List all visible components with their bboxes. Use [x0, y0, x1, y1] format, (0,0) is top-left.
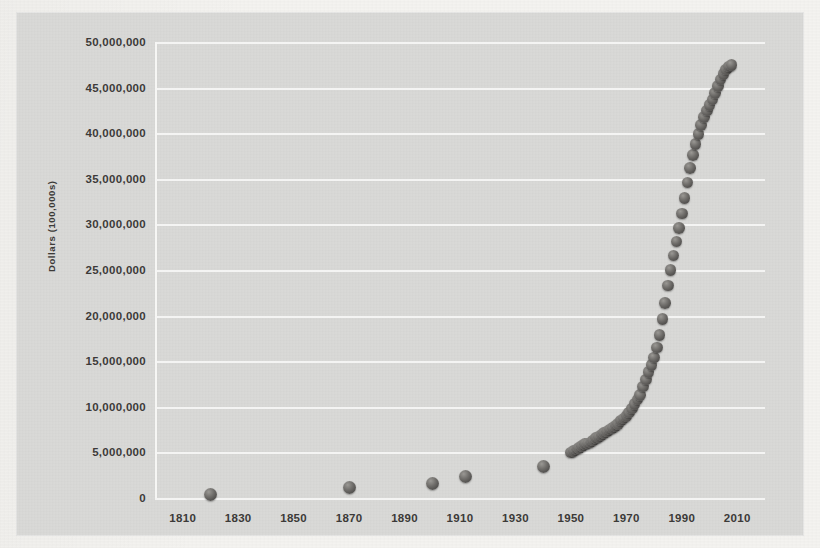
y-tick-label: 30,000,000: [85, 218, 146, 230]
data-point: [726, 59, 738, 71]
data-point: [459, 470, 472, 483]
y-tick-label: 15,000,000: [85, 355, 146, 367]
x-tick-label: 1850: [280, 512, 307, 524]
data-point: [665, 264, 677, 276]
data-point: [343, 481, 356, 494]
data-point: [537, 460, 550, 473]
data-point: [657, 313, 669, 325]
y-axis-title: Dollars (100,000s): [46, 180, 57, 272]
scanned-page: Nearly the U.S. economy into a recession…: [0, 0, 820, 548]
x-tick-label: 1910: [447, 512, 474, 524]
x-tick-label: 1990: [668, 512, 695, 524]
data-point: [682, 177, 694, 189]
gridline: [155, 42, 765, 44]
x-tick-label: 1830: [225, 512, 252, 524]
chart-figure: Dollars (100,000s) 05,000,00010,000,0001…: [16, 12, 804, 536]
y-tick-label: 35,000,000: [85, 173, 146, 185]
gridline: [155, 88, 765, 90]
gridline: [155, 498, 765, 500]
y-tick-label: 45,000,000: [85, 82, 146, 94]
data-point: [687, 149, 699, 161]
data-point: [671, 236, 683, 248]
data-point: [673, 222, 685, 234]
data-point: [659, 297, 671, 309]
data-point: [684, 162, 696, 174]
y-tick-label: 40,000,000: [85, 127, 146, 139]
gridline: [155, 407, 765, 409]
data-point: [690, 138, 702, 150]
gridline: [155, 179, 765, 181]
y-tick-label: 25,000,000: [85, 264, 146, 276]
data-point: [426, 477, 439, 490]
data-point: [204, 488, 217, 501]
gridline: [155, 361, 765, 363]
x-tick-label: 1890: [391, 512, 418, 524]
x-tick-label: 1950: [558, 512, 585, 524]
data-point: [676, 208, 688, 220]
data-point: [662, 280, 674, 292]
y-tick-label: 10,000,000: [85, 401, 146, 413]
y-tick-label: 20,000,000: [85, 310, 146, 322]
data-point: [651, 342, 663, 354]
x-tick-label: 2010: [724, 512, 751, 524]
x-tick-label: 1970: [613, 512, 640, 524]
y-tick-label: 50,000,000: [85, 36, 146, 48]
data-point: [648, 352, 660, 364]
data-point: [668, 250, 680, 262]
y-tick-label: 5,000,000: [92, 446, 146, 458]
gridline: [155, 133, 765, 135]
gridline: [155, 452, 765, 454]
plot-area: 05,000,00010,000,00015,000,00020,000,000…: [155, 42, 765, 498]
x-tick-label: 1810: [169, 512, 196, 524]
data-point: [679, 192, 691, 204]
data-point: [654, 329, 666, 341]
y-tick-label: 0: [139, 492, 146, 504]
gridline: [155, 316, 765, 318]
x-tick-label: 1930: [502, 512, 529, 524]
x-tick-label: 1870: [336, 512, 363, 524]
